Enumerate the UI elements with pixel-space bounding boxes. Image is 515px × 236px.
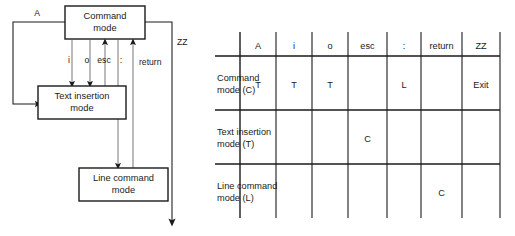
state-box-line-command-line1: Line command bbox=[93, 173, 154, 183]
table-vertical-gridlines bbox=[240, 32, 500, 218]
table-cell-c-zz: Exit bbox=[473, 80, 489, 90]
state-box-command-line2: mode bbox=[93, 23, 116, 33]
edge-label-return: return bbox=[139, 57, 162, 67]
state-box-command-line1: Command bbox=[84, 11, 127, 21]
figure-root: Command mode Text insertion mode Line co… bbox=[0, 0, 515, 236]
edge-label-colon: : bbox=[120, 55, 122, 65]
state-box-text-insertion-line1: Text insertion bbox=[55, 91, 110, 101]
table-row-header-text-line2: mode (T) bbox=[217, 139, 254, 149]
state-transition-diagram: Command mode Text insertion mode Line co… bbox=[0, 0, 215, 236]
table-row-header-text-line1: Text insertion bbox=[217, 127, 271, 137]
edge-label-zz: ZZ bbox=[177, 37, 188, 47]
table-cell-c-o: T bbox=[327, 80, 333, 90]
table-cell-c-i: T bbox=[291, 80, 297, 90]
state-box-line-command[interactable]: Line command mode bbox=[79, 168, 168, 201]
table-row-header-command-line2: mode (C) bbox=[217, 85, 255, 95]
table-col-header-return: return bbox=[429, 41, 453, 51]
table-col-header-zz: ZZ bbox=[475, 41, 487, 51]
edge-label-i: i bbox=[68, 55, 70, 65]
state-box-command[interactable]: Command mode bbox=[65, 6, 145, 39]
edge-label-o: o bbox=[85, 55, 90, 65]
transition-table: A i o esc : return ZZ Command mode (C) T… bbox=[215, 0, 515, 236]
state-box-line-command-line2: mode bbox=[112, 185, 135, 195]
state-box-text-insertion-line2: mode bbox=[70, 103, 93, 113]
table-col-header-colon: : bbox=[403, 41, 406, 51]
state-box-text-insertion[interactable]: Text insertion mode bbox=[38, 86, 126, 119]
table-cell-c-colon: L bbox=[401, 80, 406, 90]
table-row: Line command mode (L) C bbox=[217, 181, 445, 203]
table-cell-t-esc: C bbox=[364, 134, 371, 144]
edge-label-a: A bbox=[34, 8, 40, 18]
table-row-header-line-line1: Line command bbox=[217, 181, 277, 191]
table-cell-l-return: C bbox=[438, 188, 445, 198]
table-row-header-line-line2: mode (L) bbox=[217, 193, 254, 203]
table-col-header-a: A bbox=[255, 41, 262, 51]
table-col-header-i: i bbox=[293, 41, 295, 51]
table-cell-c-a: T bbox=[255, 80, 261, 90]
table-col-header-esc: esc bbox=[360, 41, 375, 51]
edge-label-esc: esc bbox=[97, 55, 111, 65]
table-col-header-o: o bbox=[327, 41, 332, 51]
table-row: Command mode (C) T T T L Exit bbox=[217, 73, 489, 95]
table-header-row: A i o esc : return ZZ bbox=[255, 41, 487, 51]
table-row-header-command-line1: Command bbox=[217, 73, 259, 83]
